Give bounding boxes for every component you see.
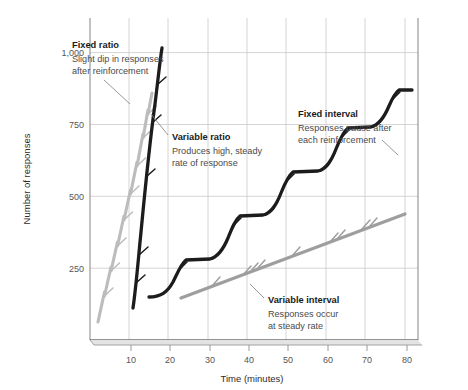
annotation-variable-ratio-line1: Produces high, steady — [172, 146, 262, 156]
xtick-label-40: 40 — [244, 355, 254, 365]
y-axis-title: Number of responses — [21, 133, 32, 224]
ytick-label-750: 750 — [69, 120, 84, 130]
x-axis-title: Time (minutes) — [221, 373, 284, 384]
annotation-fixed-ratio-line1: Slight dip in responses — [72, 54, 164, 64]
xtick-label-50: 50 — [283, 355, 293, 365]
annotation-variable-interval-title: Variable interval — [268, 295, 339, 305]
xtick-label-80: 80 — [402, 355, 412, 365]
xtick-label-10: 10 — [126, 355, 136, 365]
x-axis: 10 20 30 40 50 60 70 80 Time (minutes) — [126, 345, 412, 384]
annotation-variable-ratio-title: Variable ratio — [172, 132, 231, 142]
xtick-label-20: 20 — [165, 355, 175, 365]
annotation-fixed-interval-line2: each reinforcement — [298, 135, 376, 145]
ytick-label-250: 250 — [69, 264, 84, 274]
xtick-label-30: 30 — [205, 355, 215, 365]
annotation-variable-interval-line2: at steady rate — [268, 321, 323, 331]
annotation-fixed-interval-line1: Responses pause after — [298, 123, 392, 133]
reinforcement-schedules-chart: 1,000 750 500 250 Number of responses 10… — [0, 0, 468, 390]
xtick-label-70: 70 — [362, 355, 372, 365]
annotation-fixed-ratio-line2: after reinforcement — [72, 66, 149, 76]
annotation-fixed-ratio-title: Fixed ratio — [72, 40, 119, 50]
ytick-label-500: 500 — [69, 192, 84, 202]
xtick-label-60: 60 — [323, 355, 333, 365]
annotation-variable-ratio-line2: rate of response — [172, 158, 238, 168]
y-axis: 1,000 750 500 250 Number of responses — [21, 48, 84, 274]
annotation-fixed-interval-title: Fixed interval — [298, 109, 358, 119]
annotation-variable-interval-line1: Responses occur — [268, 309, 338, 319]
